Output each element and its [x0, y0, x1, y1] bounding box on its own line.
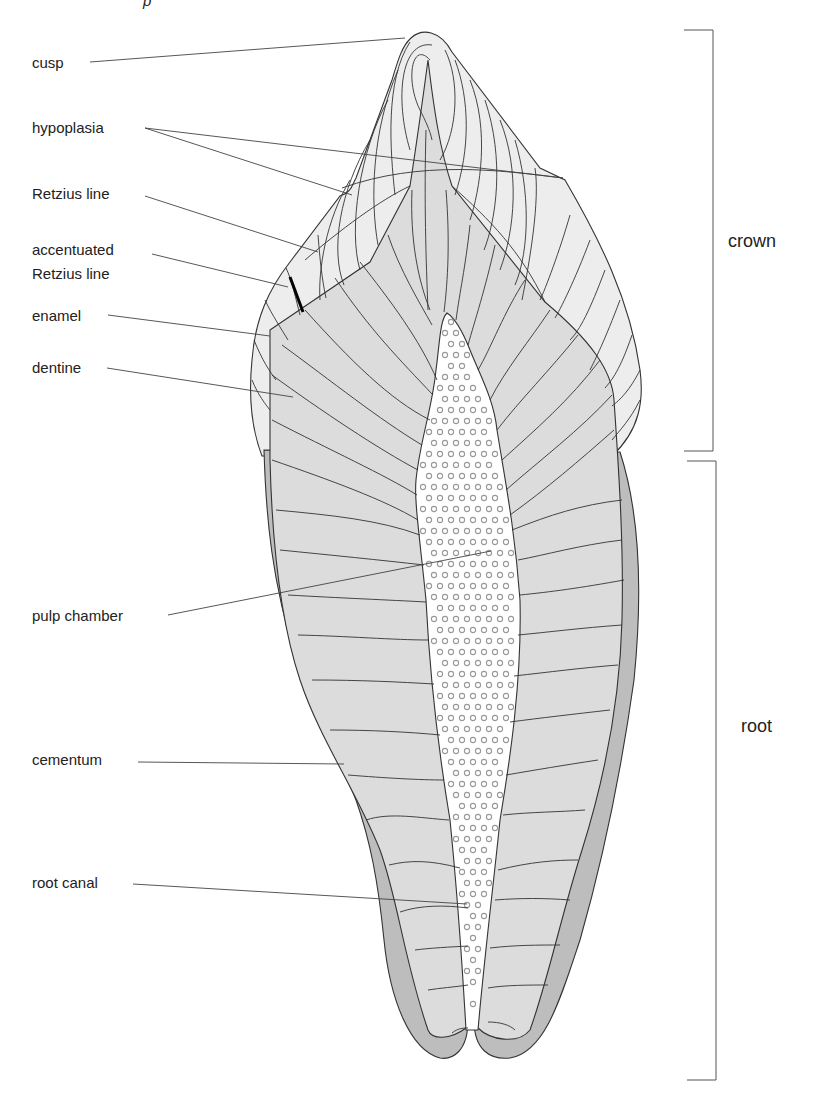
label-crown: crown — [728, 231, 776, 251]
label-enamel: enamel — [32, 307, 81, 324]
label-cusp: cusp — [32, 54, 64, 71]
leader-retzius-line — [145, 196, 318, 252]
title-fragment: p — [142, 0, 151, 9]
label-pulp-chamber: pulp chamber — [32, 607, 123, 624]
label-dentine: dentine — [32, 359, 81, 376]
leader-hypoplasia-1 — [145, 128, 352, 195]
crown-bracket: crown — [684, 30, 776, 451]
leader-cusp — [90, 38, 405, 62]
label-retzius-line: Retzius line — [32, 185, 110, 202]
label-hypoplasia: hypoplasia — [32, 119, 104, 136]
leader-enamel — [108, 315, 270, 336]
labels: cusp hypoplasia Retzius line accentuated… — [32, 54, 123, 891]
leader-accentuated-retzius-line — [152, 254, 288, 287]
tooth-section-diagram: p — [0, 0, 827, 1098]
label-root-canal: root canal — [32, 874, 98, 891]
leader-cementum — [138, 762, 344, 764]
label-accentuated-retzius-line: Retzius line — [32, 265, 110, 282]
label-root: root — [741, 716, 772, 736]
label-cementum: cementum — [32, 751, 102, 768]
label-accentuated: accentuated — [32, 241, 114, 258]
root-bracket: root — [687, 461, 772, 1080]
